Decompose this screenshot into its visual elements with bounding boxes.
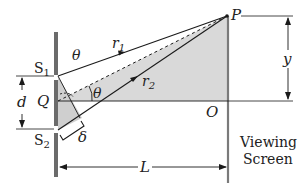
label-y: y [282,50,292,68]
label-theta-top: θ [72,47,81,63]
label-p: P [230,6,242,24]
label-delta: δ [78,128,87,146]
label-L: L [139,158,150,176]
barrier-top [54,32,58,75]
label-o: O [206,103,218,121]
barrier-bottom [54,133,58,177]
double-slit-diagram: S1 S2 Q P O r1 r2 θ θ δ d y L Viewing Sc… [0,0,308,193]
label-s2: S2 [34,132,50,150]
point-p [225,14,229,18]
label-screen: Screen [243,151,293,167]
label-viewing: Viewing [239,134,297,150]
label-r1: r1 [112,35,125,53]
label-s1: S1 [34,60,50,78]
barrier-middle [54,80,58,126]
label-theta-mid: θ [93,85,102,101]
label-q: Q [37,92,49,110]
label-d: d [17,93,27,111]
